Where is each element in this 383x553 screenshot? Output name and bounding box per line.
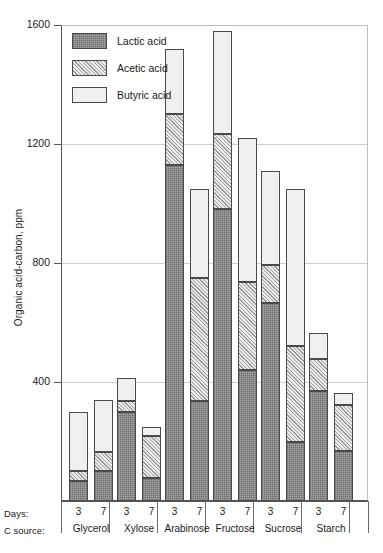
y-tick-mark-800 bbox=[54, 263, 61, 264]
bar-segment-lactic-starch-day3 bbox=[309, 391, 328, 501]
legend-swatch-butyric-acid bbox=[72, 87, 107, 103]
bar-segment-acetic-glycerol-day3 bbox=[69, 471, 88, 481]
bar-segment-acetic-starch-day7 bbox=[334, 405, 353, 451]
bar-arabinose-day7[interactable] bbox=[190, 189, 209, 501]
legend-item-lactic: Lactic acid bbox=[72, 33, 171, 49]
bar-segment-lactic-xylose-day7 bbox=[142, 478, 161, 501]
bar-segment-acetic-fructose-day3 bbox=[213, 134, 232, 210]
bar-segment-butyric-starch-day3 bbox=[309, 333, 328, 359]
x-axis-days-label-xylose-3: 3 bbox=[114, 506, 139, 517]
bar-segment-lactic-starch-day7 bbox=[334, 451, 353, 501]
bar-starch-day3[interactable] bbox=[309, 333, 328, 501]
x-axis-days-label-starch-7: 7 bbox=[331, 506, 356, 517]
y-tick-label-800: 800 bbox=[10, 256, 50, 268]
bar-segment-lactic-glycerol-day3 bbox=[69, 481, 88, 501]
bar-segment-butyric-fructose-day7 bbox=[238, 138, 257, 282]
bar-segment-acetic-xylose-day3 bbox=[117, 401, 136, 411]
x-axis-category-label-starch: Starch bbox=[303, 523, 359, 534]
x-axis-days-label-arabinose-7: 7 bbox=[187, 506, 212, 517]
bar-segment-acetic-glycerol-day7 bbox=[94, 452, 113, 471]
legend-label-lactic-acid: Lactic acid bbox=[117, 35, 167, 47]
bar-segment-lactic-xylose-day3 bbox=[117, 412, 136, 501]
days-row-key: Days: bbox=[4, 508, 28, 519]
legend-label-acetic-acid: Acetic acid bbox=[117, 62, 168, 74]
y-tick-mark-1200 bbox=[54, 144, 61, 145]
bar-segment-butyric-sucrose-day7 bbox=[286, 189, 305, 347]
bar-segment-butyric-glycerol-day3 bbox=[69, 412, 88, 472]
bar-segment-acetic-fructose-day7 bbox=[238, 282, 257, 370]
legend: Lactic acid Acetic acid Butyric acid bbox=[72, 33, 171, 114]
bar-segment-lactic-fructose-day7 bbox=[238, 370, 257, 501]
axis-separator-7 bbox=[368, 501, 369, 533]
x-axis-days-label-glycerol-3: 3 bbox=[66, 506, 91, 517]
bar-segment-butyric-starch-day7 bbox=[334, 393, 353, 405]
bar-segment-acetic-xylose-day7 bbox=[142, 436, 161, 478]
x-axis-line bbox=[61, 501, 368, 502]
bar-segment-butyric-xylose-day3 bbox=[117, 378, 136, 402]
bar-segment-lactic-arabinose-day7 bbox=[190, 401, 209, 501]
legend-item-butyric: Butyric acid bbox=[72, 87, 171, 103]
x-axis-days-label-sucrose-7: 7 bbox=[283, 506, 308, 517]
c-source-row-key: C source: bbox=[4, 525, 45, 536]
bar-segment-lactic-arabinose-day3 bbox=[165, 165, 184, 501]
organic-acid-stacked-bar-chart: Organic acid-carbon, ppm 40080012001600 … bbox=[0, 0, 383, 553]
bar-segment-acetic-starch-day3 bbox=[309, 359, 328, 391]
bar-segment-acetic-arabinose-day7 bbox=[190, 278, 209, 401]
bar-sucrose-day3[interactable] bbox=[261, 171, 280, 501]
bar-starch-day7[interactable] bbox=[334, 393, 353, 501]
bar-glycerol-day7[interactable] bbox=[94, 400, 113, 501]
x-axis-days-label-sucrose-3: 3 bbox=[258, 506, 283, 517]
axis-separator-0 bbox=[61, 501, 62, 533]
bar-segment-lactic-sucrose-day3 bbox=[261, 303, 280, 501]
x-axis-days-label-fructose-3: 3 bbox=[210, 506, 235, 517]
x-axis-days-label-glycerol-7: 7 bbox=[91, 506, 116, 517]
legend-label-butyric-acid: Butyric acid bbox=[117, 89, 171, 101]
bar-segment-butyric-glycerol-day7 bbox=[94, 400, 113, 452]
bar-segment-lactic-fructose-day3 bbox=[213, 209, 232, 501]
bar-segment-butyric-xylose-day7 bbox=[142, 427, 161, 437]
bar-fructose-day3[interactable] bbox=[213, 31, 232, 501]
bar-segment-lactic-glycerol-day7 bbox=[94, 471, 113, 501]
x-axis-days-label-fructose-7: 7 bbox=[235, 506, 260, 517]
y-tick-label-1600: 1600 bbox=[10, 18, 50, 30]
bar-arabinose-day3[interactable] bbox=[165, 49, 184, 501]
bar-segment-lactic-sucrose-day7 bbox=[286, 442, 305, 502]
legend-item-acetic: Acetic acid bbox=[72, 60, 171, 76]
bar-fructose-day7[interactable] bbox=[238, 138, 257, 501]
y-tick-mark-400 bbox=[54, 382, 61, 383]
bar-xylose-day7[interactable] bbox=[142, 427, 161, 501]
x-axis-days-label-xylose-7: 7 bbox=[139, 506, 164, 517]
bar-sucrose-day7[interactable] bbox=[286, 189, 305, 501]
x-axis-days-label-arabinose-3: 3 bbox=[162, 506, 187, 517]
x-axis-days-label-starch-3: 3 bbox=[306, 506, 331, 517]
x-axis-category-table: Days: C source: 373737373737GlycerolXylo… bbox=[0, 501, 383, 553]
bar-segment-acetic-arabinose-day3 bbox=[165, 114, 184, 165]
y-tick-label-1200: 1200 bbox=[10, 137, 50, 149]
bar-segment-butyric-fructose-day3 bbox=[213, 31, 232, 134]
y-tick-mark-1600 bbox=[54, 25, 61, 26]
legend-swatch-acetic-acid bbox=[72, 60, 107, 76]
bar-glycerol-day3[interactable] bbox=[69, 412, 88, 501]
bar-xylose-day3[interactable] bbox=[117, 378, 136, 501]
bar-segment-butyric-arabinose-day7 bbox=[190, 189, 209, 278]
legend-swatch-lactic-acid bbox=[72, 33, 107, 49]
bar-segment-butyric-sucrose-day3 bbox=[261, 171, 280, 265]
y-tick-label-400: 400 bbox=[10, 375, 50, 387]
bar-segment-acetic-sucrose-day3 bbox=[261, 265, 280, 304]
bar-segment-acetic-sucrose-day7 bbox=[286, 346, 305, 441]
